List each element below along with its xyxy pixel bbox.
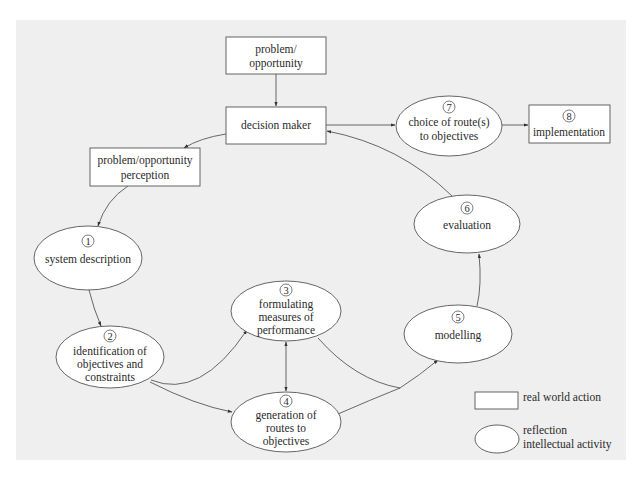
node-label: performance <box>257 324 315 337</box>
node-label: problem/ <box>255 43 297 56</box>
legend-ellipse-swatch <box>475 425 519 453</box>
legend-ellipse-label-2: intellectual activity <box>523 438 612 451</box>
node-label: decision maker <box>241 119 311 131</box>
legend: real world action reflection intellectua… <box>475 391 612 453</box>
node-number: 1 <box>85 236 90 247</box>
node-label: measures of <box>258 311 313 323</box>
node-label: generation of <box>256 409 317 422</box>
node-8-implementation: 8 implementation <box>529 105 610 143</box>
node-label: problem/opportunity <box>97 154 192 167</box>
node-5-modelling: 5 modelling <box>404 305 512 363</box>
edge-decision-to-perception <box>184 134 226 148</box>
node-label: opportunity <box>249 57 303 70</box>
edge-generation-to-modelling <box>338 360 438 414</box>
node-label: implementation <box>533 126 605 139</box>
node-label: objectives <box>263 435 310 448</box>
node-2-identification: 2 identification of objectives and const… <box>56 326 164 388</box>
node-1-system-description: 1 system description <box>34 226 142 290</box>
node-number: 6 <box>464 203 469 214</box>
edge-perception-to-system <box>98 186 128 226</box>
legend-ellipse-label-1: reflection <box>523 424 567 436</box>
edge-identification-to-generation <box>150 382 232 412</box>
node-number: 2 <box>107 331 112 342</box>
node-label: to objectives <box>420 130 479 143</box>
node-label: constraints <box>85 371 135 383</box>
edge-formulating-to-modelling <box>318 338 400 388</box>
node-problem-opportunity: problem/ opportunity <box>226 37 326 74</box>
node-label: evaluation <box>443 219 491 231</box>
node-label: routes to <box>266 422 306 434</box>
node-number: 8 <box>566 111 571 122</box>
node-number: 7 <box>446 102 451 113</box>
edge-system-to-identification <box>89 290 101 326</box>
edge-modelling-to-evaluation <box>477 254 480 306</box>
node-label: system description <box>45 253 131 266</box>
edge-identification-to-formulating <box>151 330 247 384</box>
node-label: objectives and <box>77 358 143 371</box>
node-4-generation: 4 generation of routes to objectives <box>231 392 341 452</box>
node-label: perception <box>121 169 170 182</box>
legend-rect-label: real world action <box>523 391 601 403</box>
node-3-formulating: 3 formulating measures of performance <box>231 281 341 341</box>
legend-rect-swatch <box>475 392 518 409</box>
systems-methodology-diagram: problem/ opportunity decision maker prob… <box>0 0 640 482</box>
node-label: formulating <box>259 298 314 311</box>
node-number: 5 <box>455 312 460 323</box>
node-decision-maker: decision maker <box>226 107 326 144</box>
node-7-choice-of-routes: 7 choice of route(s) to objectives <box>396 96 502 156</box>
node-6-evaluation: 6 evaluation <box>414 195 520 253</box>
node-label: identification of <box>73 345 147 357</box>
node-number: 4 <box>283 396 289 407</box>
node-label: choice of route(s) <box>408 116 489 129</box>
node-label: modelling <box>435 329 482 342</box>
node-number: 3 <box>283 285 288 296</box>
node-perception: problem/opportunity perception <box>90 148 200 186</box>
